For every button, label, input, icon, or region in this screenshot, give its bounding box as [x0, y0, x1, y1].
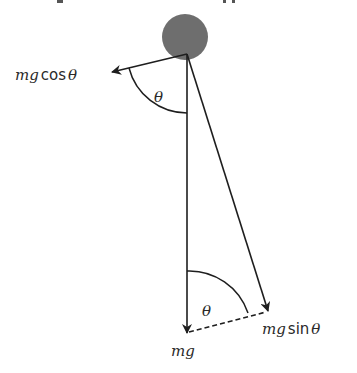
- force-diagram: mgcosθ θ θ mgsinθ mg: [0, 0, 357, 373]
- angle-arc-bottom: [187, 271, 248, 313]
- cos-component-arrow: [112, 54, 187, 72]
- sin-component-label: mgsinθ: [262, 320, 320, 338]
- dashed-connector: [189, 312, 266, 332]
- angle-label-top: θ: [154, 88, 163, 106]
- weight-label: mg: [171, 342, 195, 360]
- cos-component-label: mgcosθ: [15, 66, 77, 84]
- clipped-heading: [57, 0, 235, 3]
- angle-label-bottom: θ: [202, 302, 211, 320]
- pendulum-bob: [162, 14, 208, 60]
- sin-component-arrow: [187, 54, 268, 311]
